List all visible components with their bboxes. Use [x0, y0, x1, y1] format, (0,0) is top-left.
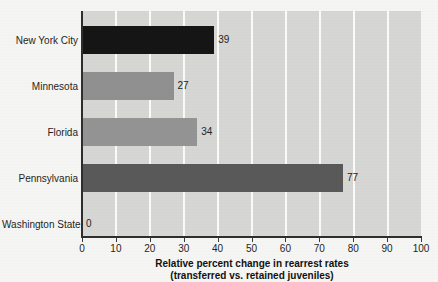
x-axis-title: Relative percent change in rearrest rate…: [82, 258, 422, 281]
x-tick-label: 10: [110, 243, 121, 254]
category-label-pennsylvania: Pennsylvania: [2, 173, 78, 184]
value-label-washington-state: 0: [86, 219, 92, 229]
x-tick-mark: [387, 238, 388, 242]
x-tick-mark: [252, 238, 253, 242]
x-tick-label: 20: [144, 243, 155, 254]
x-tick-mark: [421, 238, 422, 242]
bar-minnesota[interactable]: [82, 72, 174, 100]
gridline: [387, 11, 389, 236]
gridline: [353, 11, 355, 236]
bar-new-york-city[interactable]: [82, 26, 214, 54]
x-axis-title-line-1: Relative percent change in rearrest rate…: [82, 258, 422, 270]
chart-figure: 39 27 34 77 0 New York City Minnesota Fl…: [0, 0, 438, 282]
x-tick-label: 90: [382, 243, 393, 254]
x-axis-title-line-2: (transferred vs. retained juveniles): [82, 270, 422, 282]
x-tick-label: 30: [178, 243, 189, 254]
bar-pennsylvania[interactable]: [82, 164, 343, 192]
x-tick-mark: [218, 238, 219, 242]
x-tick-mark: [319, 238, 320, 242]
category-label-washington-state: Washington State: [2, 219, 78, 230]
bar-florida[interactable]: [82, 118, 197, 146]
x-tick-label: 80: [348, 243, 359, 254]
x-tick-mark: [353, 238, 354, 242]
category-label-minnesota: Minnesota: [2, 81, 78, 92]
x-tick-label: 70: [314, 243, 325, 254]
x-tick-label: 40: [212, 243, 223, 254]
value-label-florida: 34: [201, 127, 212, 137]
category-label-florida: Florida: [2, 127, 78, 138]
gridline: [251, 11, 253, 236]
x-tick-mark: [184, 238, 185, 242]
x-tick-label: 100: [413, 243, 430, 254]
x-tick-mark: [150, 238, 151, 242]
value-label-minnesota: 27: [178, 81, 189, 91]
x-tick-mark: [116, 238, 117, 242]
x-tick-label: 60: [280, 243, 291, 254]
x-tick-mark: [285, 238, 286, 242]
category-label-new-york-city: New York City: [2, 35, 78, 46]
x-tick-label: 50: [246, 243, 257, 254]
x-tick-mark: [82, 238, 83, 242]
gridline: [319, 11, 321, 236]
plot-area: [82, 11, 421, 236]
x-tick-label: 0: [79, 243, 85, 254]
value-label-new-york-city: 39: [218, 35, 229, 45]
y-axis-line: [81, 11, 83, 237]
gridline: [285, 11, 287, 236]
y-axis-category-labels: New York City Minnesota Florida Pennsylv…: [0, 11, 78, 236]
value-label-pennsylvania: 77: [347, 173, 358, 183]
